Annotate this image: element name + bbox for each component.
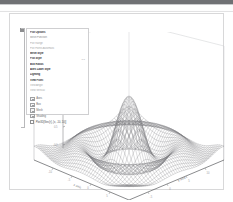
panel-footer-row[interactable]: Plot3D[Sinc[r], {x, -10, 10}] [30,120,86,125]
panel-row-label: Mesh Style [30,52,44,57]
panel-icon-row-label: Shading [36,114,46,119]
panel-icon-row[interactable]: Box [30,102,86,107]
panel-icon-row[interactable]: Shading [30,114,86,119]
x-axis-label: x axis [73,183,82,190]
window-toolbar-secondary [0,5,233,12]
notebook-canvas: 1.0 0.5 0.0 -10 -5 0 5 x axis [9,13,224,190]
panel-row-label: View Angle [30,84,43,89]
panel-row-list: Plot OptionsMesh FunctionPlot RangePlot … [30,31,86,94]
panel-row-value: 1.0 [82,58,86,61]
panel-icon-row-label: Box [36,102,41,107]
panel-row[interactable]: Box Ratios [30,63,86,68]
panel-row-label: View Point [30,79,43,84]
panel-footer-label: Plot3D[Sinc[r], {x, -10, 10}] [36,121,67,124]
svg-text:0: 0 [169,187,171,191]
panel-row[interactable]: View Angle [30,84,86,89]
panel-row-label: Box Ratios [30,63,44,68]
svg-text:5: 5 [106,194,108,198]
shading-icon[interactable] [30,114,35,118]
panel-row[interactable]: View Vertical [30,89,86,94]
svg-text:0: 0 [87,186,89,190]
panel-icon-row-label: Mesh [36,108,43,113]
mesh-line [59,140,154,185]
mesh-line [116,145,211,186]
panel-row-label: View Vertical [30,89,45,94]
panel-row[interactable]: Axes Label Style [30,68,86,73]
svg-text:0.5: 0.5 [54,125,58,129]
panel-row[interactable]: Lighting [30,73,86,78]
panel-icon-row-list: AxesBoxMeshShading [30,96,86,119]
svg-text:10: 10 [207,171,210,175]
panel-row-label: Lighting [30,73,40,78]
plot-options-panel[interactable]: Plot OptionsMesh FunctionPlot RangePlot … [26,28,89,115]
svg-text:-10: -10 [48,170,52,174]
panel-row-label: Axes Label Style [30,68,51,73]
panel-row[interactable]: View Point [30,79,86,84]
svg-text:-5: -5 [68,178,71,182]
panel-icon-row-label: Axes [36,96,42,101]
panel-row[interactable]: Mesh Function [30,36,86,41]
panel-row[interactable]: Plot Options [30,31,86,36]
mesh-line [121,145,216,187]
panel-row[interactable]: Plot Style1.0 [30,57,86,62]
panel-row-label: Plot Range [30,42,43,47]
panel-row-label: Plot Options [30,31,45,36]
panel-icon-row[interactable]: Mesh [30,108,86,113]
panel-row[interactable]: Plot Points Automatic [30,47,86,52]
panel-icon-row[interactable]: Axes [30,96,86,101]
app-window: 1.0 0.5 0.0 -10 -5 0 5 x axis [0,0,233,202]
panel-row-label: Plot Points Automatic [30,47,54,52]
panel-row[interactable]: Plot Range [30,42,86,47]
svg-text:-5: -5 [150,195,153,199]
panel-row-label: Mesh Function [30,36,47,41]
axes-icon[interactable] [30,97,35,101]
panel-row-label: Plot Style [30,57,42,62]
svg-text:5: 5 [188,179,190,183]
mesh-line [47,145,142,186]
panel-row[interactable]: Mesh Style [30,52,86,57]
mesh-line [42,145,137,187]
checkbox-icon[interactable] [30,120,34,124]
mesh-icon[interactable] [30,108,35,112]
cell-bracket [21,28,25,128]
box-icon[interactable] [30,103,35,107]
